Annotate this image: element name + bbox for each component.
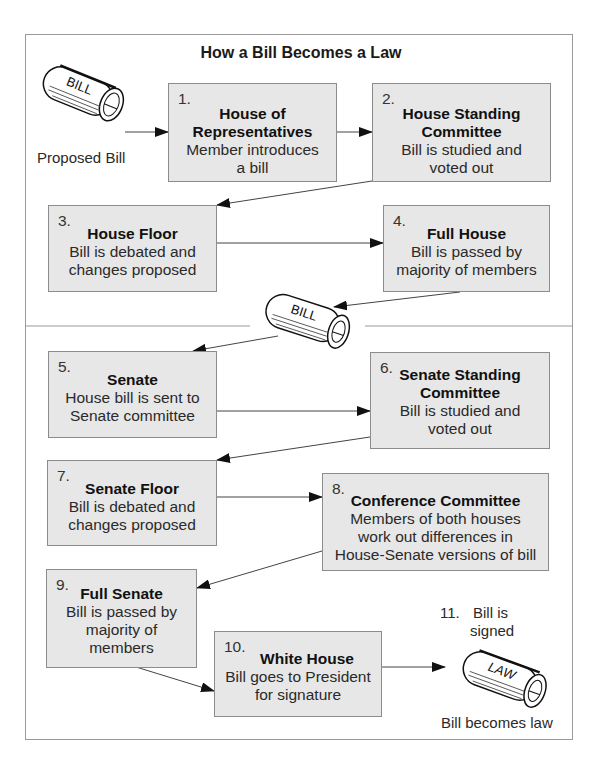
arrow-scroll-to-5 <box>193 336 278 351</box>
step-6-box: 6. Senate Standing Committee Bill is stu… <box>370 352 550 449</box>
step-8-box: 8. Conference Committee Members of both … <box>322 473 549 571</box>
step-10-box: 10. White House Bill goes to President f… <box>214 631 382 717</box>
bill-scroll-icon-middle: BILL <box>261 290 354 351</box>
step-1-box: 1. House of Representatives Member intro… <box>168 83 337 182</box>
step-11-caption-line2: signed <box>470 622 514 639</box>
bill-scroll-icon: BILL <box>38 62 128 125</box>
step-9-box: 9. Full Senate Bill is passed by majorit… <box>46 569 197 668</box>
proposed-bill-label: Proposed Bill <box>37 149 125 166</box>
arrow-9-to-10 <box>136 667 214 691</box>
arrow-8-to-9 <box>197 551 322 588</box>
step-4-box: 4. Full House Bill is passed by majority… <box>383 205 550 292</box>
step-7-box: 7. Senate Floor Bill is debated and chan… <box>47 460 217 546</box>
law-scroll-icon: LAW <box>458 647 551 710</box>
step-11-caption-line1: Bill is <box>473 604 508 621</box>
bill-becomes-law-label: Bill becomes law <box>441 714 553 731</box>
step-11-number: 11. <box>440 604 460 621</box>
arrow-6-to-7 <box>217 437 370 460</box>
step-3-box: 3. House Floor Bill is debated and chang… <box>48 205 217 292</box>
arrow-2-to-3 <box>217 181 372 205</box>
step-5-box: 5. Senate House bill is sent to Senate c… <box>48 351 217 438</box>
arrow-4-to-scroll <box>334 292 460 307</box>
step-2-box: 2. House Standing Committee Bill is stud… <box>372 83 551 182</box>
